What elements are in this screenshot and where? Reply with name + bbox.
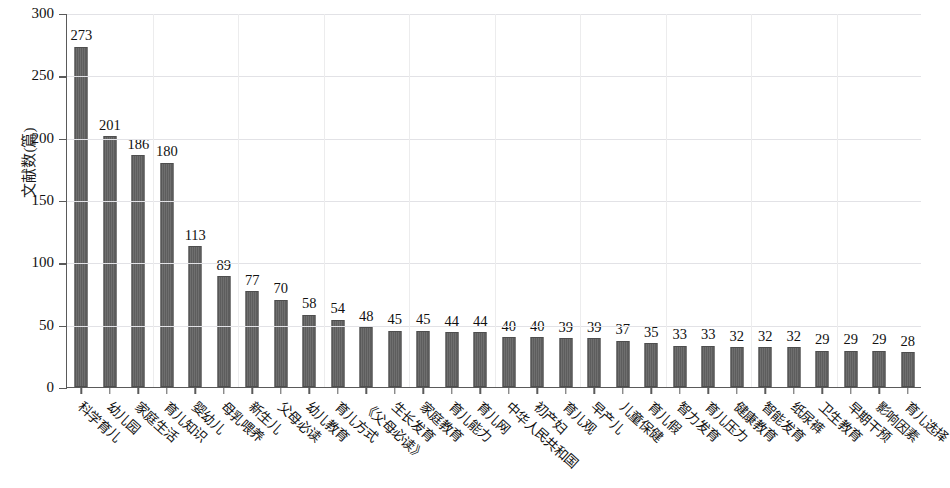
bar[interactable] — [160, 163, 173, 387]
bar[interactable] — [873, 351, 886, 387]
y-axis-tick-label: 200 — [14, 130, 54, 147]
y-axis-tick — [59, 14, 67, 15]
plot-area: 2732011861801138977705854484545444440403… — [66, 14, 921, 388]
x-axis-tick-labels: 科学育儿幼儿园家庭生活育儿知识婴幼儿母乳喂养新生儿父母必读幼儿教育育儿方式《父母… — [66, 392, 921, 488]
bar-value-label: 77 — [245, 273, 260, 288]
bar[interactable] — [189, 246, 202, 387]
y-axis-tick — [59, 76, 67, 77]
bar[interactable] — [217, 276, 230, 387]
bar-value-label: 32 — [730, 329, 745, 344]
y-axis-tick — [59, 388, 67, 389]
y-axis-tick-label: 250 — [14, 67, 54, 84]
bar[interactable] — [388, 331, 401, 387]
bar[interactable] — [103, 136, 116, 387]
gridline-vertical — [409, 14, 410, 387]
bar[interactable] — [246, 291, 259, 387]
gridline-vertical — [666, 14, 667, 387]
bar[interactable] — [531, 337, 544, 387]
bar[interactable] — [616, 341, 629, 387]
y-axis-tick-label: 150 — [14, 192, 54, 209]
bar-value-label: 33 — [673, 327, 688, 342]
gridline-vertical — [495, 14, 496, 387]
bar[interactable] — [502, 337, 515, 387]
bar[interactable] — [645, 343, 658, 387]
bar-value-label: 29 — [844, 332, 859, 347]
gridline-vertical — [580, 14, 581, 387]
bar-value-label: 89 — [217, 258, 232, 273]
gridline-vertical — [153, 14, 154, 387]
bar-value-label: 113 — [185, 228, 206, 243]
bar[interactable] — [787, 347, 800, 387]
bar[interactable] — [559, 338, 572, 387]
bar[interactable] — [417, 331, 430, 387]
bar[interactable] — [274, 300, 287, 387]
bar-value-label: 35 — [644, 325, 659, 340]
bar-value-label: 58 — [302, 296, 317, 311]
y-axis-tick — [59, 326, 67, 327]
gridline-vertical — [238, 14, 239, 387]
gridline-vertical — [324, 14, 325, 387]
gridline-vertical — [751, 14, 752, 387]
bar-value-label: 180 — [156, 144, 178, 159]
bar[interactable] — [331, 320, 344, 387]
y-axis-tick — [59, 263, 67, 264]
y-axis-title: 文献数(篇) — [17, 88, 38, 238]
bar[interactable] — [673, 346, 686, 387]
bar[interactable] — [759, 347, 772, 387]
bar-value-label: 54 — [331, 301, 346, 316]
bar-value-label: 37 — [616, 322, 631, 337]
bar[interactable] — [702, 346, 715, 387]
y-axis-tick-label: 50 — [14, 317, 54, 334]
bar[interactable] — [445, 332, 458, 387]
bar[interactable] — [360, 327, 373, 387]
y-axis-tick-label: 300 — [14, 5, 54, 22]
bar-value-label: 70 — [274, 281, 289, 296]
bar-value-label: 28 — [901, 334, 916, 349]
bar-value-label: 32 — [758, 329, 773, 344]
bar-value-label: 39 — [587, 320, 602, 335]
y-axis-tick — [59, 139, 67, 140]
bar-value-label: 39 — [559, 320, 574, 335]
bar[interactable] — [844, 351, 857, 387]
bar[interactable] — [901, 352, 914, 387]
y-axis-tick-label: 0 — [14, 379, 54, 396]
bar[interactable] — [816, 351, 829, 387]
bar-value-label: 29 — [872, 332, 887, 347]
bar-value-label: 29 — [815, 332, 830, 347]
bar[interactable] — [75, 47, 88, 387]
bar-value-label: 201 — [99, 118, 121, 133]
bar-value-label: 48 — [359, 309, 374, 324]
bar[interactable] — [132, 155, 145, 387]
bar[interactable] — [588, 338, 601, 387]
bar[interactable] — [730, 347, 743, 387]
bar-value-label: 33 — [701, 327, 716, 342]
y-axis-tick — [59, 201, 67, 202]
bar[interactable] — [474, 332, 487, 387]
bar-value-label: 32 — [787, 329, 802, 344]
bar-value-label: 273 — [70, 28, 92, 43]
y-axis-tick-label: 100 — [14, 254, 54, 271]
gridline-vertical — [837, 14, 838, 387]
